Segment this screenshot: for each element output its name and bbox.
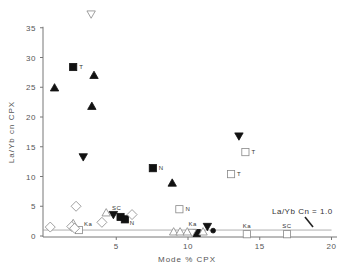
triangle-down-marker: [87, 11, 95, 18]
point-label: Ka: [188, 221, 197, 227]
point-label: T: [79, 64, 83, 70]
x-tick-label: 10: [183, 242, 193, 251]
square-marker: [176, 206, 183, 213]
point-label: Ka: [243, 223, 252, 229]
triangle-up-marker: [168, 179, 176, 186]
point-label: N: [185, 206, 190, 212]
triangle-down-marker: [79, 154, 87, 161]
x-tick-label: 20: [327, 242, 337, 251]
reference-line-label: La/Yb Cn = 1.0: [272, 207, 333, 216]
x-axis-title: Mode % CPX: [158, 255, 216, 264]
square-marker: [70, 63, 77, 70]
y-tick-label: 25: [26, 83, 36, 92]
square-marker: [121, 216, 128, 223]
data-points: TNSCNKaTTNKaKaSC: [45, 11, 292, 238]
scatter-chart: 051015202530355101520 TNSCNKaTTNKaKaSC M…: [0, 0, 351, 274]
y-tick-label: 0: [31, 232, 36, 241]
x-tick-label: 15: [255, 242, 265, 251]
y-tick-label: 15: [26, 143, 36, 152]
diamond-marker: [45, 222, 55, 232]
axes: 051015202530355101520: [26, 24, 337, 251]
y-tick-label: 35: [26, 24, 36, 33]
point-label: T: [251, 149, 255, 155]
point-label: SC: [282, 223, 292, 229]
square-marker: [149, 165, 156, 172]
triangle-up-marker: [88, 102, 96, 109]
arrow-pointer-icon: [305, 217, 313, 227]
square-marker: [243, 231, 250, 238]
square-marker: [242, 149, 249, 156]
point-label: Ka: [84, 221, 93, 227]
y-tick-label: 30: [26, 54, 36, 63]
point-label: T: [237, 171, 241, 177]
diamond-marker: [97, 217, 107, 227]
y-tick-label: 10: [26, 173, 36, 182]
point-label: SC: [112, 205, 122, 211]
triangle-down-marker: [109, 211, 117, 218]
point-label: N: [159, 165, 164, 171]
y-tick-label: 20: [26, 113, 36, 122]
triangle-up-marker: [102, 209, 110, 216]
triangle-down-marker: [235, 133, 243, 140]
triangle-up-marker: [50, 84, 58, 91]
point-label: N: [130, 220, 135, 226]
square-marker: [283, 231, 290, 238]
triangle-up-marker: [176, 228, 184, 235]
y-tick-label: 5: [31, 202, 36, 211]
circle-marker: [211, 228, 216, 233]
x-tick-label: 5: [114, 242, 119, 251]
square-marker: [227, 171, 234, 178]
diamond-marker: [71, 201, 81, 211]
triangle-up-marker: [90, 71, 98, 78]
y-axis-title: La/Yb cn CPX: [7, 101, 16, 163]
